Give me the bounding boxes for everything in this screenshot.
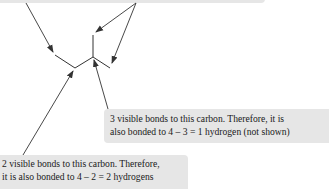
callout-text-line: also bonded to 4 – 3 = 1 hydrogen (not s… — [110, 126, 329, 139]
ch-carbon-callout: 3 visible bonds to this carbon. Therefor… — [104, 109, 329, 143]
callout-text-line: it is also bonded to 4 – 2 = 2 hydrogens — [2, 171, 188, 184]
arrow-top-to-left-end — [26, 3, 53, 52]
bond-left — [55, 55, 75, 68]
arrow-bottom-to-ch2-carbon — [23, 71, 73, 155]
bond-center — [75, 57, 93, 68]
skeletal-structure — [55, 35, 110, 68]
callout-text-line: 2 visible bonds to this carbon. Therefor… — [2, 158, 188, 171]
arrow-mid-to-ch-carbon — [94, 60, 108, 109]
callout-text-line: 3 visible bonds to this carbon. Therefor… — [110, 113, 329, 126]
ch2-carbon-callout: 2 visible bonds to this carbon. Therefor… — [0, 155, 188, 189]
